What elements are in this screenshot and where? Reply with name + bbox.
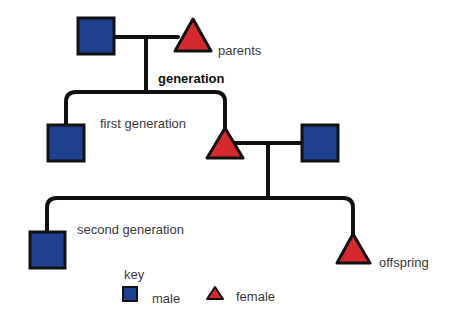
parent-male-square: [78, 18, 114, 54]
gen1-spouse-male-square: [302, 125, 338, 161]
first-generation-label: first generation: [100, 117, 186, 130]
key-male-square-icon: [123, 287, 137, 301]
key-female-triangle-icon: [207, 287, 223, 299]
offspring-label: offspring: [379, 256, 429, 269]
parents-label: parents: [218, 44, 261, 57]
parent-female-triangle: [175, 19, 211, 51]
gen2-female-triangle: [337, 234, 370, 263]
gen2-male-square: [30, 232, 65, 268]
key-title: key: [124, 268, 144, 281]
gen1-male-square: [48, 125, 84, 161]
key-female-label: female: [236, 290, 275, 303]
generation-label: generation: [158, 72, 224, 85]
key-male-label: male: [152, 292, 180, 305]
second-generation-label: second generation: [77, 223, 184, 236]
